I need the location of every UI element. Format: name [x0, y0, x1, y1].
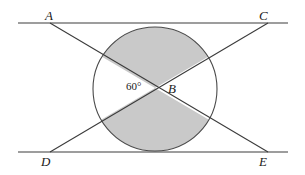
- figure-canvas: [0, 0, 305, 175]
- geometry-figure: A C D E B 60°: [0, 0, 305, 175]
- shaded-sectors-group: [0, 0, 305, 175]
- vertex-label-d: D: [41, 155, 50, 168]
- vertex-label-b: B: [168, 82, 176, 95]
- angle-label-60-degrees: 60°: [126, 81, 141, 92]
- vertex-label-e: E: [259, 155, 267, 168]
- vertex-label-c: C: [259, 9, 268, 22]
- vertex-label-a: A: [45, 9, 53, 22]
